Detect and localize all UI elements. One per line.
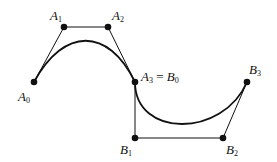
point-a3-b0 bbox=[132, 79, 139, 86]
point-b3 bbox=[244, 79, 251, 86]
label-a3-equals-b0: A3 = B0 bbox=[141, 70, 179, 85]
bezier-diagram bbox=[0, 0, 277, 162]
point-a1 bbox=[61, 24, 68, 31]
bezier-curve-b bbox=[135, 82, 247, 124]
point-b2 bbox=[220, 135, 227, 142]
label-a0: A0 bbox=[18, 90, 30, 105]
label-b2: B2 bbox=[226, 143, 238, 158]
label-a1: A1 bbox=[50, 9, 62, 24]
bezier-curve-a bbox=[34, 41, 135, 82]
point-a2 bbox=[105, 24, 112, 31]
point-b1 bbox=[132, 135, 139, 142]
control-polygon-a bbox=[34, 27, 135, 82]
point-a0 bbox=[31, 79, 38, 86]
label-b1: B1 bbox=[120, 143, 132, 158]
label-a2: A2 bbox=[112, 9, 124, 24]
control-polygon-b bbox=[135, 82, 247, 138]
label-b3: B3 bbox=[249, 63, 261, 78]
